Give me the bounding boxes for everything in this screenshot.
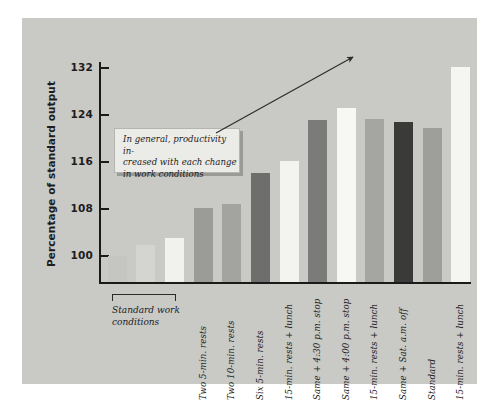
x-category-label: Two 10-min. rests bbox=[226, 320, 236, 400]
callout-line: In general, productivity in- bbox=[123, 134, 239, 157]
x-axis-category-labels: Two 5-min. restsTwo 10-min. restsSix 5-m… bbox=[99, 288, 471, 400]
x-category-label: Two 5-min. rests bbox=[198, 326, 208, 400]
bar bbox=[165, 238, 184, 282]
y-tick-label: 108 bbox=[53, 202, 93, 214]
x-category-label: 15-min. rests + lunch bbox=[455, 304, 465, 400]
y-tick-label: 116 bbox=[53, 155, 93, 167]
y-tick-label: 132 bbox=[53, 61, 93, 73]
x-category-label: Standard bbox=[427, 359, 437, 400]
callout-box: In general, productivity in-creased with… bbox=[114, 128, 240, 173]
bar bbox=[394, 122, 413, 282]
bar bbox=[337, 108, 356, 282]
x-axis-line bbox=[99, 282, 471, 284]
y-tick-label: 124 bbox=[53, 108, 93, 120]
x-category-label: Same + 4:00 p.m. stop bbox=[341, 299, 351, 400]
x-category-label: 15-min. rests + lunch bbox=[284, 304, 294, 400]
callout-line: creased with each change bbox=[123, 157, 239, 169]
bar bbox=[108, 256, 127, 282]
bar bbox=[451, 67, 470, 282]
bar bbox=[365, 119, 384, 282]
bar bbox=[136, 245, 155, 282]
callout-text: In general, productivity in-creased with… bbox=[123, 134, 239, 180]
x-category-label: Six 5-min. rests bbox=[255, 330, 265, 400]
hawthorne-productivity-bar-chart: 100108116124132 Percentage of standard o… bbox=[0, 0, 498, 402]
x-category-label: Same + Sat. a.m. off bbox=[398, 308, 408, 400]
bar bbox=[222, 204, 241, 282]
bar bbox=[194, 208, 213, 282]
chart-plot-panel: 100108116124132 Percentage of standard o… bbox=[22, 18, 477, 384]
x-category-label: Same + 4:30 p.m. stop bbox=[312, 299, 322, 400]
x-category-label: 15-min. rests + lunch bbox=[369, 304, 379, 400]
bar bbox=[280, 161, 299, 282]
callout-line: in work conditions bbox=[123, 169, 239, 181]
y-tick-label: 100 bbox=[53, 249, 93, 261]
bar bbox=[423, 128, 442, 282]
y-axis-title: Percentage of standard output bbox=[45, 79, 57, 269]
bar bbox=[251, 173, 270, 282]
bar bbox=[308, 120, 327, 282]
